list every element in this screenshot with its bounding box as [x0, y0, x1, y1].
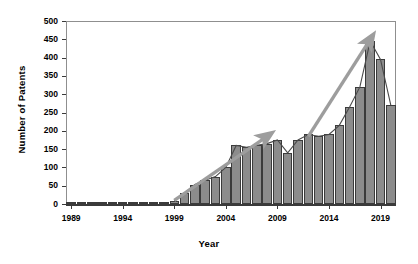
x-axis-title: Year — [0, 238, 418, 249]
chart-overlay — [66, 21, 396, 205]
y-tick-label: 250 — [24, 108, 58, 117]
annotation-arrows — [174, 39, 370, 200]
y-tick-label: 150 — [24, 145, 58, 154]
x-tick-mark — [123, 205, 124, 209]
x-tick-label: 2014 — [309, 214, 349, 223]
y-tick-label: 350 — [24, 71, 58, 80]
y-tick-label: 400 — [24, 53, 58, 62]
x-tick-mark — [71, 205, 72, 209]
x-tick-mark — [277, 205, 278, 209]
y-tick-label: 200 — [24, 126, 58, 135]
x-tick-mark — [174, 205, 175, 209]
y-tick-label: 100 — [24, 163, 58, 172]
growth-arrow-2 — [308, 39, 370, 136]
patents-bar-chart: Number of Patents Year 05010015020025030… — [0, 0, 418, 264]
x-tick-mark — [226, 205, 227, 209]
growth-arrow-1 — [174, 136, 267, 200]
plot-area — [66, 21, 396, 205]
x-tick-label: 1989 — [51, 214, 91, 223]
y-tick-label: 0 — [24, 200, 58, 209]
x-tick-label: 2019 — [361, 214, 401, 223]
x-tick-label: 2004 — [206, 214, 246, 223]
y-tick-label: 450 — [24, 35, 58, 44]
y-tick-label: 300 — [24, 90, 58, 99]
x-tick-mark — [329, 205, 330, 209]
x-tick-mark — [381, 205, 382, 209]
x-tick-label: 1999 — [154, 214, 194, 223]
y-tick-label: 50 — [24, 181, 58, 190]
x-tick-label: 1994 — [103, 214, 143, 223]
y-tick-label: 500 — [24, 17, 58, 26]
x-tick-label: 2009 — [257, 214, 297, 223]
